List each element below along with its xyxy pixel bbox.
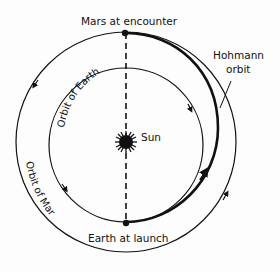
earth-at-launch-label: Earth at launch	[88, 233, 168, 244]
orbit-of-earth-label: Orbit of Earth	[55, 65, 101, 128]
sun-label: Sun	[141, 132, 161, 143]
hohmann-orbit-label-line2: orbit	[226, 64, 250, 75]
orbit-of-mars-label: Orbit of Mars	[0, 0, 58, 218]
sun-icon	[115, 131, 137, 153]
mars-at-encounter-dot	[122, 30, 128, 36]
mars-at-encounter-label: Mars at encounter	[81, 16, 177, 27]
hohmann-transfer-orbit	[126, 33, 218, 222]
earth-at-launch-dot	[123, 220, 129, 226]
hohmann-orbit-label-line1: Hohmann	[213, 50, 264, 61]
hohmann-diagram: Orbit of Earth Orbit of Mars Mars at enc…	[0, 0, 280, 272]
